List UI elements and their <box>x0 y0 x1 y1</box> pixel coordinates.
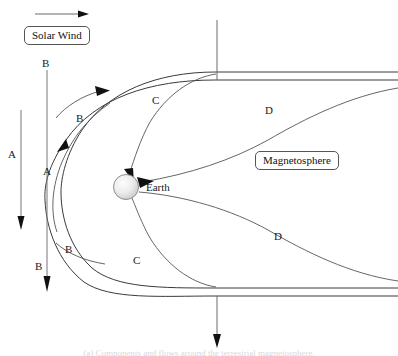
label-b-top-line: B <box>42 57 49 69</box>
axis-line-bottom <box>213 296 221 348</box>
label-earth: Earth <box>146 181 170 193</box>
streamline-b-lower <box>56 243 105 264</box>
magnetosphere-boxed-label: Magnetosphere <box>255 151 339 170</box>
flow-line-a-left <box>18 110 25 230</box>
figure-caption: (a) Components and flows around the terr… <box>0 348 398 356</box>
field-line-d-lower <box>139 192 398 281</box>
label-c-upper: C <box>152 94 159 106</box>
flow-line-b-left <box>44 70 51 292</box>
diagram-canvas: A A B B B B C C D D Earth <box>0 0 398 356</box>
magnetopause-curve <box>61 72 398 288</box>
field-line-d-upper <box>137 88 398 188</box>
label-b-top-curve: B <box>76 112 83 124</box>
label-b-bottom-line: B <box>35 260 42 272</box>
magnetosphere-diagram: A A B B B B C C D D Earth Solar Wind Mag… <box>0 0 398 356</box>
label-d-upper: D <box>265 104 273 116</box>
label-a-inner: A <box>43 165 51 177</box>
label-c-lower: C <box>133 254 140 266</box>
solar-wind-direction-arrow <box>35 11 89 18</box>
label-a-left: A <box>8 148 16 160</box>
earth-sphere <box>114 175 139 200</box>
solar-wind-boxed-label: Solar Wind <box>24 26 90 45</box>
field-line-c-lower <box>131 196 216 287</box>
label-d-lower: D <box>274 230 282 242</box>
label-b-bottom-curve: B <box>65 243 72 255</box>
